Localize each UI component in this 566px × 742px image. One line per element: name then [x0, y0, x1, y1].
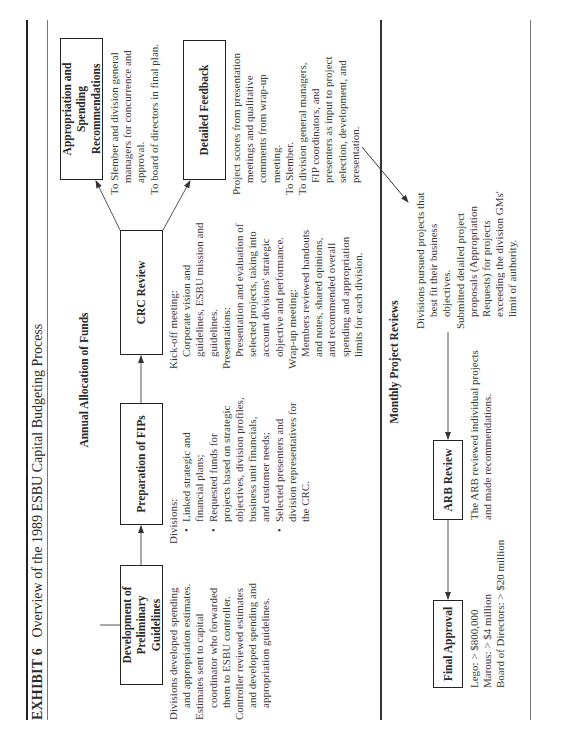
note-line: and customer needs; — [259, 379, 272, 544]
note-line: Requested funds for — [207, 379, 220, 544]
footer-rule — [530, 20, 531, 720]
note-line: Divisions: — [167, 379, 180, 544]
note-line: To Slember and division general — [108, 5, 121, 195]
arrow-feedback-to-divisions — [362, 147, 408, 202]
note-line: exceeding the division GMs' — [493, 159, 506, 329]
note-line: the CRC. — [299, 379, 312, 544]
note-line: best fit their business — [427, 159, 440, 329]
note-line: financial plans; — [193, 379, 206, 544]
box-arb-review: ARB Review — [433, 440, 463, 520]
note-line: guidelines, ESBU mission and — [193, 199, 206, 369]
note-line: Presentations: — [220, 199, 233, 369]
note-line: appropriation guidelines. — [259, 545, 272, 720]
divisions-monthly-notes: Divisions pursued projects thatbest fit … — [414, 159, 520, 329]
box-preparation-fips: Preparation of FIPs — [120, 403, 163, 525]
note-line: approval. — [134, 5, 147, 195]
note-line: Marous: > $4 million — [481, 498, 494, 688]
note-line: Selected presenters and — [273, 379, 286, 544]
note-line: Requests) for projects — [480, 159, 493, 329]
note-line: and appropriation estimates. — [180, 545, 193, 720]
note-line: selection, development, and — [336, 5, 349, 195]
note-line: selected projects, taking into — [246, 199, 259, 369]
final-approval-notes: Lego: > $800,000Marous: > $4 millionBoar… — [468, 498, 508, 688]
arb-review-notes: The ARB reviewed individual projectsand … — [468, 320, 494, 520]
section-divider-rule — [380, 20, 382, 720]
note-line: spending and appropriation — [339, 199, 352, 369]
note-line: and developed spending and — [246, 545, 259, 720]
header-bottom-rule — [47, 20, 48, 720]
note-line: Controller reviewed estimates — [233, 545, 246, 720]
note-line: limit of authority. — [506, 159, 519, 329]
note-line: To Slember. — [283, 5, 296, 195]
note-line: Members reviewed handouts — [299, 199, 312, 369]
note-line: account divisions' strategic — [259, 199, 272, 369]
note-line: objective and performance. — [273, 199, 286, 369]
note-line: and made recommendations. — [481, 320, 494, 520]
note-line: projects based on strategic — [220, 379, 233, 544]
crc-review-notes: Kick-off meeting:Corporate vision andgui… — [167, 199, 365, 369]
box-development-guidelines-label: Development of Preliminary Guidelines — [120, 570, 163, 680]
note-line: The ARB reviewed individual projects — [468, 320, 481, 520]
development-guidelines-notes: Divisions developed spendingand appropri… — [167, 545, 273, 720]
annual-allocation-heading: Annual Allocation of Funds — [78, 312, 90, 447]
note-line: limits for each division. — [352, 199, 365, 369]
exhibit-title: EXHIBIT 6 Overview of the 1989 ESBU Capi… — [30, 324, 46, 720]
note-line: Submitted detailed project — [454, 159, 467, 329]
box-appropriation-recommendations-label: Appropriation and Spending Recommendatio… — [60, 43, 103, 175]
note-line: Lego: > $800,000 — [468, 498, 481, 688]
note-line: proposals (Appropriation — [467, 159, 480, 329]
note-line: Divisions developed spending — [167, 545, 180, 720]
note-line: and recommended overall — [325, 199, 338, 369]
note-line: guidelines. — [207, 199, 220, 369]
note-line: coordinator who forwarded — [207, 545, 220, 720]
note-line: Project scores from presentation — [230, 5, 243, 195]
box-preparation-fips-label: Preparation of FIPs — [134, 415, 148, 513]
note-line: Board of Directors: > $20 million — [494, 498, 507, 688]
box-arb-review-label: ARB Review — [441, 449, 455, 512]
note-line: division representatives for — [286, 379, 299, 544]
note-line: presentation. — [349, 5, 362, 195]
box-final-approval: Final Approval — [433, 600, 463, 688]
note-line: Wrap-up meeting: — [286, 199, 299, 369]
note-line: To division general managers, — [296, 5, 309, 195]
box-development-guidelines: Development of Preliminary Guidelines — [120, 565, 163, 685]
note-line: meeting. — [270, 5, 283, 195]
monthly-reviews-heading: Monthly Project Reviews — [388, 300, 400, 424]
note-line: Kick-off meeting: — [167, 199, 180, 369]
note-line: FIP coordinators, and — [309, 5, 322, 195]
note-line: objectives. — [440, 159, 453, 329]
box-final-approval-label: Final Approval — [441, 607, 455, 681]
box-appropriation-recommendations: Appropriation and Spending Recommendatio… — [60, 38, 103, 180]
note-line: and notes, shared opinions, — [312, 199, 325, 369]
note-line: meetings and qualitative — [243, 5, 256, 195]
note-line: comments from wrap-up — [256, 5, 269, 195]
header-top-rule — [26, 20, 28, 720]
note-line: them to ESBU controller. — [220, 545, 233, 720]
exhibit-label: EXHIBIT 6 — [30, 648, 45, 720]
note-line: objectives, division profiles, — [233, 379, 246, 544]
note-line: Divisions pursued projects that — [414, 159, 427, 329]
appropriation-recommendations-notes: To Slember and division generalmanagers … — [108, 5, 161, 195]
detailed-feedback-notes: Project scores from presentationmeetings… — [230, 5, 362, 195]
exhibit-title-text: Overview of the 1989 ESBU Capital Budget… — [30, 324, 45, 638]
note-line: Estimates sent to capital — [193, 545, 206, 720]
box-crc-review-label: CRC Review — [134, 261, 148, 325]
note-line: Presentation and evaluation of — [233, 199, 246, 369]
note-line: business unit financials, — [246, 379, 259, 544]
box-detailed-feedback-label: Detailed Feedback — [197, 64, 211, 155]
box-crc-review: CRC Review — [120, 230, 163, 355]
exhibit-page: EXHIBIT 6 Overview of the 1989 ESBU Capi… — [0, 0, 566, 742]
box-detailed-feedback: Detailed Feedback — [183, 40, 226, 180]
note-line: presenters as input to project — [322, 5, 335, 195]
note-line: Corporate vision and — [180, 199, 193, 369]
note-line: Linked strategic and — [180, 379, 193, 544]
note-line: To board of directors in final plan. — [148, 5, 161, 195]
note-line: managers for concurrence and — [121, 5, 134, 195]
preparation-fips-notes: Divisions:Linked strategic andfinancial … — [167, 379, 312, 544]
